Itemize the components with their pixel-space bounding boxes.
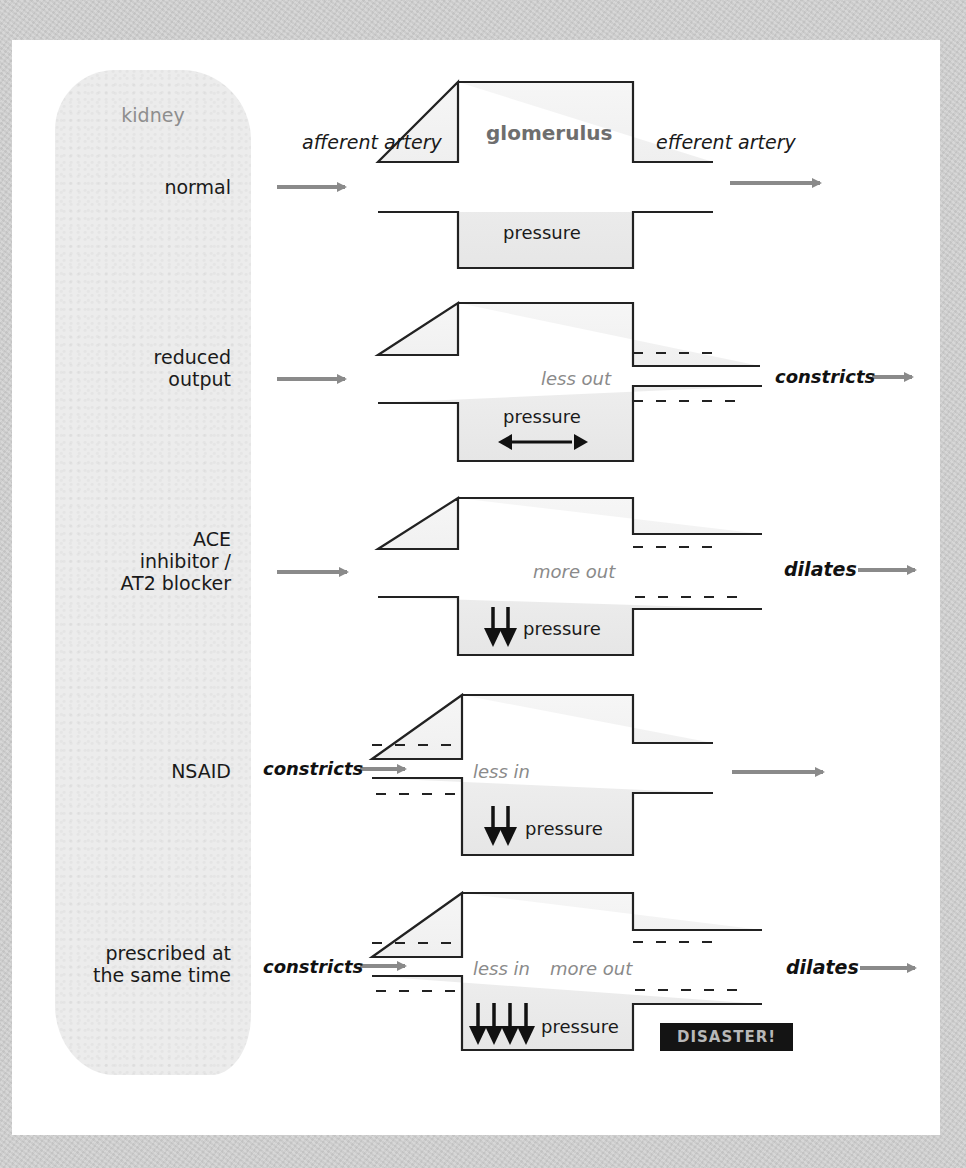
chamber-note: more out: [550, 958, 632, 979]
outlet-note: dilates: [786, 956, 859, 978]
efferent-artery-label: efferent artery: [656, 131, 796, 153]
pressure-label: pressure: [541, 1016, 619, 1037]
chamber-note: less out: [541, 368, 611, 389]
afferent-artery-label: afferent artery: [302, 131, 442, 153]
disaster-badge: DISASTER!: [660, 1023, 793, 1051]
inlet-note: constricts: [263, 956, 363, 977]
pressure-label: pressure: [523, 618, 601, 639]
chamber-note: more out: [533, 561, 615, 582]
outlet-note: dilates: [784, 558, 857, 580]
inlet-note: constricts: [263, 758, 363, 779]
chamber-note: less in: [473, 958, 530, 979]
glomerulus-diagram: [0, 0, 966, 1168]
pressure-label: pressure: [503, 222, 581, 243]
pressure-label: pressure: [503, 406, 581, 427]
pressure-indicators: [469, 434, 588, 1045]
chamber-note: less in: [473, 761, 530, 782]
pressure-label: pressure: [525, 818, 603, 839]
outlet-note: constricts: [775, 366, 875, 387]
glomerulus-label: glomerulus: [486, 121, 612, 145]
